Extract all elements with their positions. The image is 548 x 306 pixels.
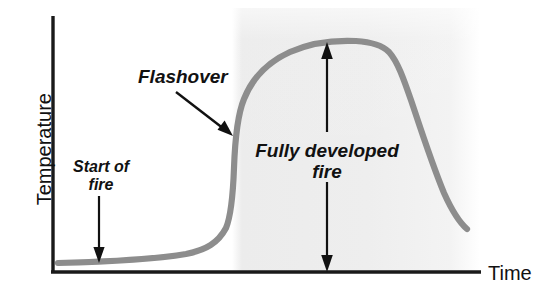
fully-developed-fire-annotation: Fully developedfire <box>238 140 416 183</box>
start-of-fire-line-1: Start of <box>73 158 129 175</box>
flashover-arrow <box>176 92 233 136</box>
start-of-fire-line-2: fire <box>89 176 114 193</box>
fully-developed-line-1: Fully developed <box>255 140 399 161</box>
fully-developed-line-2: fire <box>312 161 342 182</box>
flashover-annotation: Flashover <box>138 66 228 87</box>
x-axis-label: Time <box>488 262 532 284</box>
start-of-fire-arrow <box>93 196 104 263</box>
figure-canvas: Temperature Time Start offire Flashover … <box>0 0 548 306</box>
start-of-fire-annotation: Start offire <box>58 158 144 194</box>
y-axis-label: Temperature <box>33 59 55 239</box>
